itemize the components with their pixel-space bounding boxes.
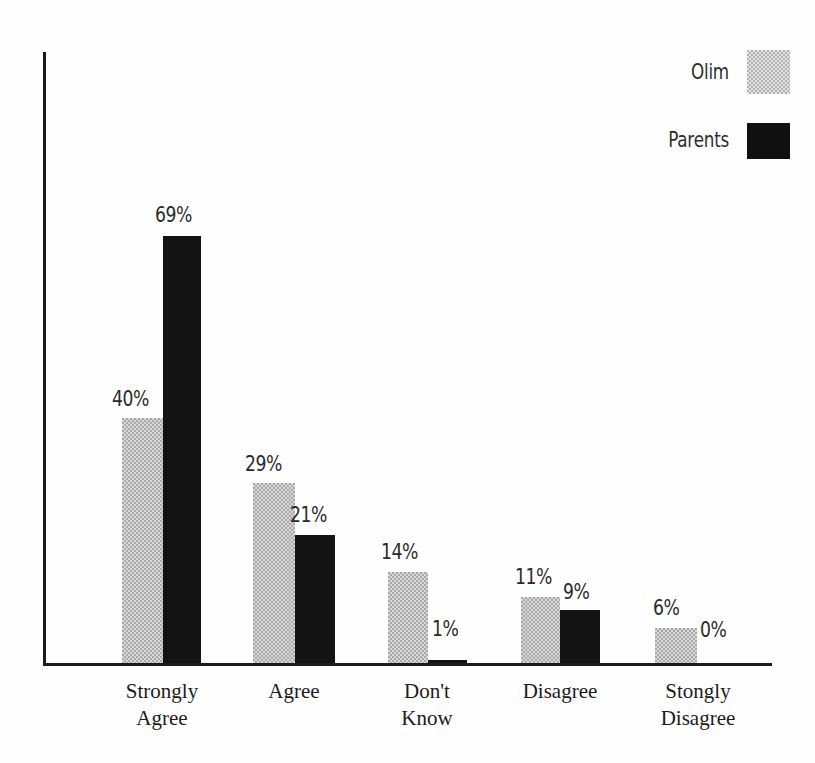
legend-item-olim: Olim <box>629 50 790 94</box>
bar-parents-agree <box>295 535 335 665</box>
bar-olim-agree <box>253 483 295 665</box>
category-label-agree: Agree <box>233 678 355 705</box>
horizontal-axis-line <box>43 663 772 666</box>
legend-label-olim: Olim <box>649 60 729 84</box>
bar-value-label-parents-disagree: 9% <box>563 580 590 604</box>
bar-value-label-parents-agree: 21% <box>290 503 327 527</box>
bar-value-label-olim-strongly-agree: 40% <box>112 387 149 411</box>
bar-value-label-parents-stongly-disagree: 0% <box>700 618 727 642</box>
legend-swatch-olim-icon <box>747 50 790 94</box>
bar-olim-disagree <box>521 597 560 665</box>
category-label-strongly-agree: Strongly Agree <box>101 678 223 732</box>
category-label-stongly-disagree: Stongly Disagree <box>632 678 764 732</box>
legend-swatch-parents-icon <box>747 123 790 159</box>
bar-value-label-parents-strongly-agree: 69% <box>155 203 192 227</box>
bar-value-label-olim-disagree: 11% <box>515 565 552 589</box>
bar-value-label-olim-agree: 29% <box>245 452 282 476</box>
bar-value-label-olim-dont-know: 14% <box>381 540 418 564</box>
category-label-disagree: Disagree <box>499 678 621 705</box>
legend-label-parents: Parents <box>649 128 729 152</box>
bar-parents-disagree <box>560 610 600 665</box>
bar-olim-dont-know <box>388 572 428 665</box>
chart-legend: Olim Parents <box>620 45 800 170</box>
legend-item-parents: Parents <box>629 118 790 162</box>
bar-chart: 40% 69% 29% 21% 14% 1% 11% 9% 6% 0% Stro… <box>0 0 815 763</box>
bar-olim-strongly-agree <box>122 418 163 665</box>
category-label-dont-know: Don't Know <box>366 678 488 732</box>
bar-olim-stongly-disagree <box>655 628 697 665</box>
bar-value-label-parents-dont-know: 1% <box>432 617 459 641</box>
vertical-axis-line <box>43 52 46 666</box>
bar-parents-strongly-agree <box>163 236 201 665</box>
bar-value-label-olim-stongly-disagree: 6% <box>653 596 680 620</box>
